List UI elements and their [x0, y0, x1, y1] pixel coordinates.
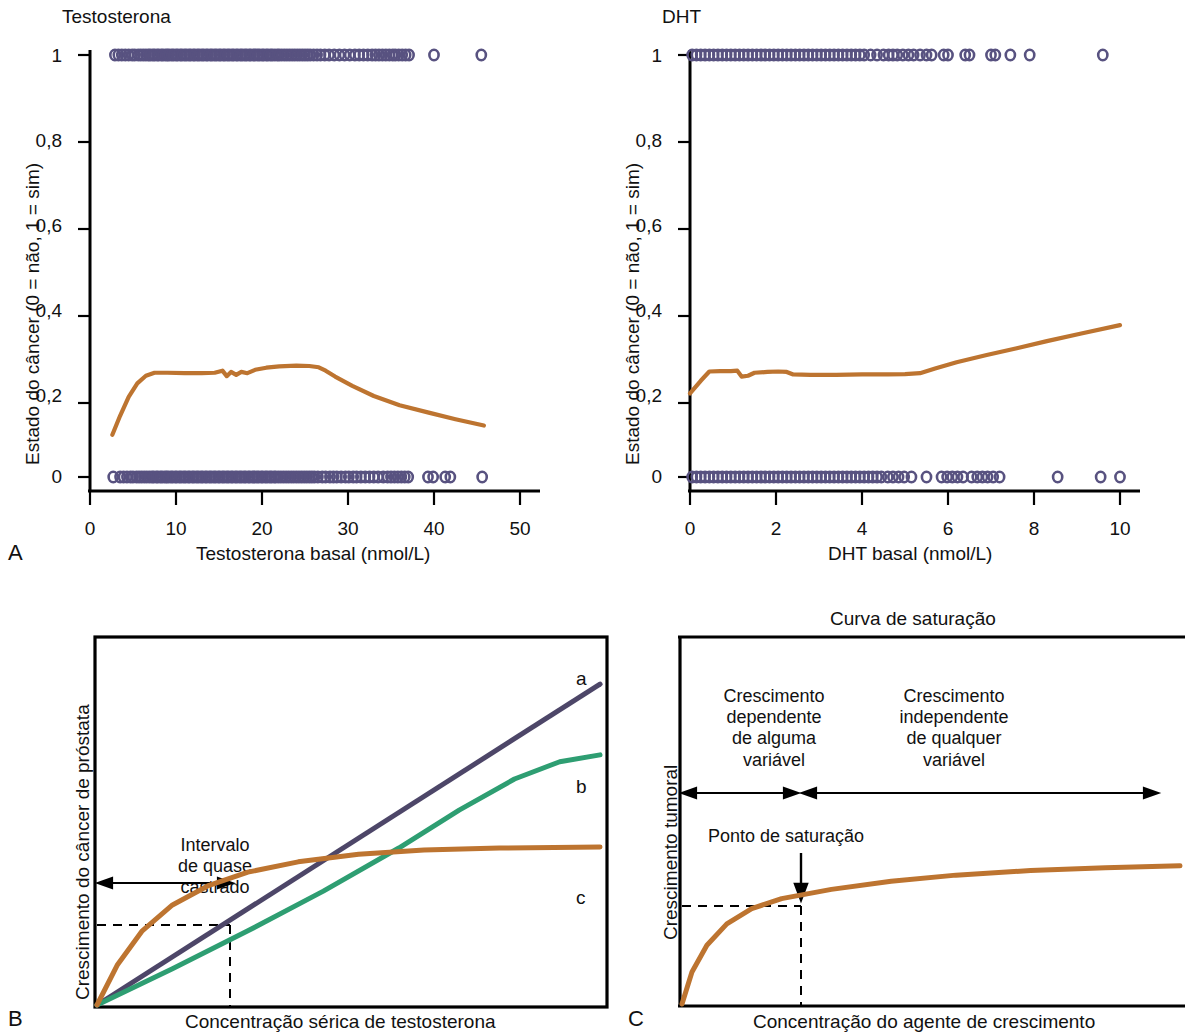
panel-dht-fit-line: [690, 325, 1120, 393]
panel-a-testosterona: Testosterona Estado do câncer (0 = não, …: [0, 0, 600, 585]
panel-c-region-arrows: [682, 788, 1158, 798]
panel-a-y-ticks: [78, 55, 90, 477]
panel-b: Crescimento do câncer de próstata Concen…: [0, 600, 620, 1036]
panel-dht-xtick-2: 2: [758, 518, 794, 540]
panel-b-curve-c: [97, 847, 600, 1005]
panel-c: Curva de saturação Crescimento tumoral C…: [620, 600, 1185, 1036]
panel-dht-x-axis-label: DHT basal (nmol/L): [828, 543, 992, 565]
panel-a-points-cancer-yes: [110, 50, 486, 60]
panel-a-xtick-10: 10: [158, 518, 194, 540]
panel-dht-xtick-6: 6: [930, 518, 966, 540]
panel-dht-x-ticks: [690, 491, 1120, 505]
panel-dht-xtick-8: 8: [1016, 518, 1052, 540]
panel-dht-points-cancer-yes: [688, 50, 1108, 60]
panel-dht-xtick-0: 0: [672, 518, 708, 540]
panel-dht-plot: [600, 0, 1185, 520]
panel-b-curve-a: [97, 684, 600, 1005]
panel-b-plot: [0, 600, 620, 1036]
panel-a-dht: DHT Estado do câncer (0 = não, 1 = sim) …: [600, 0, 1185, 585]
panel-a-xtick-50: 50: [502, 518, 538, 540]
panel-a-xtick-20: 20: [244, 518, 280, 540]
panel-a-x-ticks: [90, 491, 520, 505]
panel-a-xtick-30: 30: [330, 518, 366, 540]
panel-a-xtick-40: 40: [416, 518, 452, 540]
panel-dht-points-cancer-no: [688, 472, 1125, 482]
panel-a-points-cancer-no: [109, 472, 487, 482]
panel-a-plot: [0, 0, 600, 520]
panel-a-x-axis-label: Testosterona basal (nmol/L): [196, 543, 430, 565]
panel-c-saturation-curve: [682, 866, 1180, 1004]
panel-a-xtick-0: 0: [72, 518, 108, 540]
panel-dht-xtick-10: 10: [1102, 518, 1138, 540]
panel-c-plot: [620, 600, 1185, 1036]
panel-dht-y-ticks: [678, 55, 690, 477]
panel-b-frame: [95, 637, 607, 1007]
panel-b-curve-b: [97, 755, 600, 1005]
panel-dht-xtick-4: 4: [844, 518, 880, 540]
panel-a-letter: A: [8, 540, 23, 566]
panel-a-fit-line: [112, 366, 484, 435]
